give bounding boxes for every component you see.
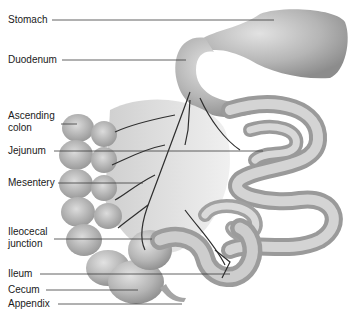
label-cecum: Cecum (8, 284, 40, 296)
label-ileocecal-junction: Ileocecal junction (8, 226, 47, 250)
intestine-illustration (0, 0, 354, 319)
label-stomach: Stomach (8, 14, 47, 26)
label-ileum: Ileum (8, 268, 32, 280)
label-mesentery: Mesentery (8, 177, 55, 189)
intestine-diagram: Stomach Duodenum Ascending colon Jejunum… (0, 0, 354, 319)
label-ascending-colon: Ascending colon (8, 110, 55, 134)
label-jejunum: Jejunum (8, 145, 46, 157)
label-appendix: Appendix (8, 298, 50, 310)
label-duodenum: Duodenum (8, 54, 57, 66)
ascending-colon-shape (59, 114, 122, 256)
appendix-shape (160, 284, 186, 302)
